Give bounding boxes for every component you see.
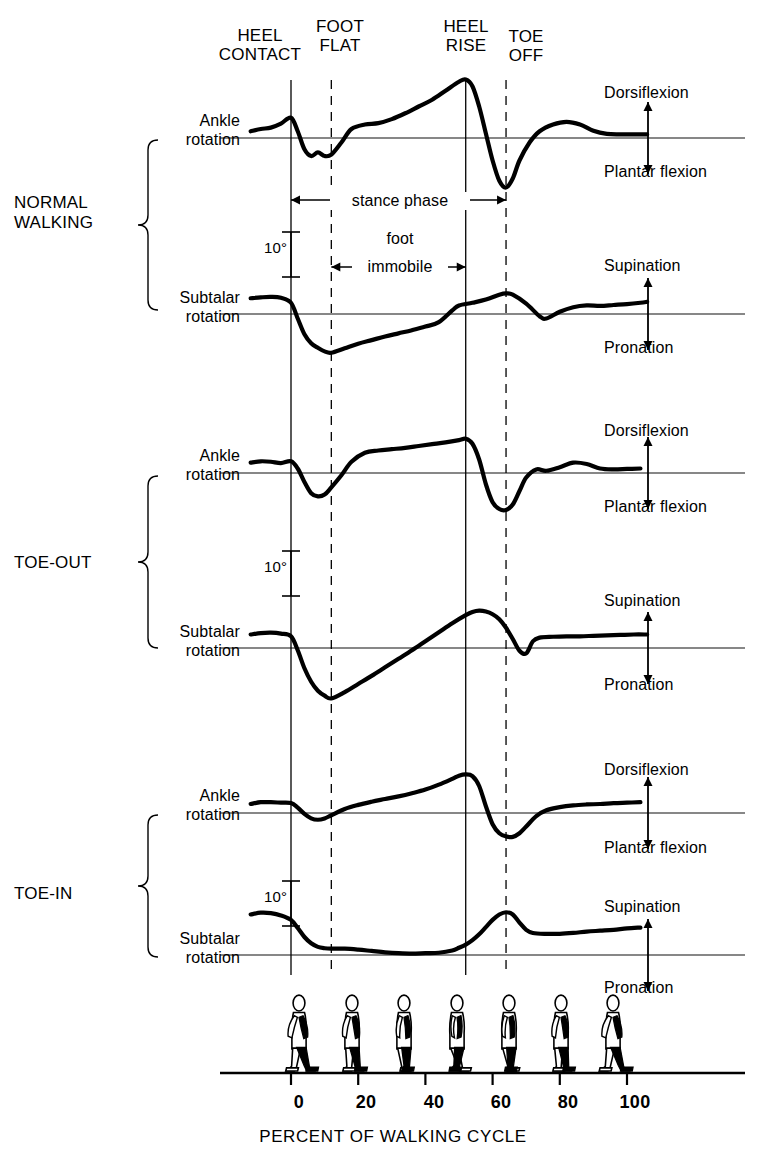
- walking-figure-3: [449, 995, 471, 1071]
- direction-label-plantarflexion-3: Plantar flexion: [604, 839, 707, 857]
- xtick-20: 20: [346, 1092, 386, 1113]
- scale-marker-label-2: 10°: [264, 558, 287, 575]
- event-label-toe-off-line2: OFF: [496, 46, 556, 65]
- event-label-heel-rise: HEEL RISE: [426, 17, 506, 55]
- row-label-toeout-subtalar: Subtalar rotation: [100, 622, 240, 660]
- group-label-toe-in: TOE-IN: [14, 884, 134, 904]
- trace-toe-out-subtalar: [251, 611, 647, 699]
- row-label-toein-ankle-line1: Ankle: [100, 786, 240, 805]
- scale-marker-label-3: 10°: [264, 888, 287, 905]
- xtick-0: 0: [279, 1092, 319, 1113]
- walking-figure-4: [502, 995, 520, 1071]
- row-label-normal-ankle-line1: Ankle: [100, 111, 240, 130]
- direction-label-pronation-2: Pronation: [604, 676, 673, 694]
- phase-label-immobile: immobile: [352, 258, 448, 276]
- row-label-normal-ankle-line2: rotation: [100, 130, 240, 149]
- group-label-toe-out-line1: TOE-OUT: [14, 553, 134, 573]
- group-label-normal-walking: NORMAL WALKING: [14, 193, 134, 233]
- row-label-toein-subtalar-line2: rotation: [100, 948, 240, 967]
- row-label-toein-ankle: Ankle rotation: [100, 786, 240, 824]
- direction-label-supination-3: Supination: [604, 898, 681, 916]
- phase-label-foot: foot: [360, 230, 440, 248]
- event-label-foot-flat-line2: FLAT: [295, 36, 385, 55]
- row-label-toeout-ankle-line2: rotation: [100, 465, 240, 484]
- xtick-80: 80: [548, 1092, 588, 1113]
- group-label-normal-walking-line1: NORMAL: [14, 193, 134, 213]
- x-axis-title: PERCENT OF WALKING CYCLE: [183, 1127, 603, 1147]
- walking-figure-1: [342, 995, 367, 1071]
- group-label-toe-out: TOE-OUT: [14, 553, 134, 573]
- xtick-40: 40: [414, 1092, 454, 1113]
- row-label-toeout-subtalar-line2: rotation: [100, 641, 240, 660]
- direction-label-dorsiflexion-1: Dorsiflexion: [604, 84, 689, 102]
- walking-figure-6: [599, 995, 633, 1071]
- group-label-toe-in-line1: TOE-IN: [14, 884, 134, 904]
- event-label-toe-off-line1: TOE: [496, 27, 556, 46]
- direction-label-dorsiflexion-3: Dorsiflexion: [604, 761, 689, 779]
- row-label-normal-subtalar-line2: rotation: [100, 307, 240, 326]
- direction-label-plantarflexion-2: Plantar flexion: [604, 498, 707, 516]
- xtick-100: 100: [613, 1092, 657, 1113]
- xtick-60: 60: [481, 1092, 521, 1113]
- phase-label-stance-phase: stance phase: [330, 192, 470, 210]
- trace-normal-walking-ankle: [251, 79, 647, 187]
- direction-label-supination-1: Supination: [604, 257, 681, 275]
- row-label-toeout-ankle-line1: Ankle: [100, 446, 240, 465]
- trace-toe-out-ankle: [251, 439, 641, 511]
- walking-figure-5: [552, 995, 576, 1071]
- row-label-toeout-subtalar-line1: Subtalar: [100, 622, 240, 641]
- trace-toe-in-ankle: [251, 774, 641, 837]
- event-label-foot-flat-line1: FOOT: [295, 17, 385, 36]
- row-label-normal-subtalar-line1: Subtalar: [100, 288, 240, 307]
- event-label-foot-flat: FOOT FLAT: [295, 17, 385, 55]
- group-label-normal-walking-line2: WALKING: [14, 213, 134, 233]
- scale-marker-label-1: 10°: [264, 239, 287, 256]
- row-label-normal-subtalar: Subtalar rotation: [100, 288, 240, 326]
- direction-label-plantarflexion-1: Plantar flexion: [604, 163, 707, 181]
- group-brace-normal-walking: [138, 140, 158, 310]
- row-label-toeout-ankle: Ankle rotation: [100, 446, 240, 484]
- walking-figure-2: [396, 995, 414, 1071]
- trace-toe-in-subtalar: [251, 912, 641, 953]
- direction-label-pronation-1: Pronation: [604, 339, 673, 357]
- event-label-heel-rise-line2: RISE: [426, 36, 506, 55]
- row-label-toein-ankle-line2: rotation: [100, 805, 240, 824]
- trace-normal-walking-subtalar: [251, 293, 647, 353]
- direction-label-dorsiflexion-2: Dorsiflexion: [604, 422, 689, 440]
- walking-figure-0: [286, 995, 319, 1071]
- event-label-heel-rise-line1: HEEL: [426, 17, 506, 36]
- event-label-toe-off: TOE OFF: [496, 27, 556, 65]
- gait-figure: HEEL CONTACT FOOT FLAT HEEL RISE TOE OFF…: [0, 0, 767, 1162]
- row-label-toein-subtalar-line1: Subtalar: [100, 929, 240, 948]
- direction-label-supination-2: Supination: [604, 592, 681, 610]
- row-label-toein-subtalar: Subtalar rotation: [100, 929, 240, 967]
- direction-label-pronation-3: Pronation: [604, 979, 673, 997]
- row-label-normal-ankle: Ankle rotation: [100, 111, 240, 149]
